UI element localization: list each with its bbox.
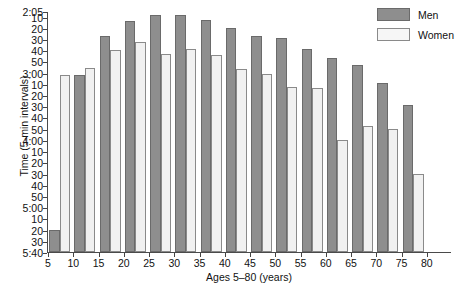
y-axis-tick-label: 20 (31, 226, 43, 236)
y-axis-tick-label: 3:00 (23, 69, 43, 79)
bar-men-age-10 (74, 75, 85, 252)
y-axis-tick-label: 50 (31, 125, 43, 135)
y-axis-tick-label: 30 (31, 35, 43, 45)
bar-men-age-40 (226, 28, 237, 252)
bar-men-age-25 (150, 15, 161, 252)
bar-men-age-15 (100, 36, 111, 252)
bar-women-age-5 (60, 75, 71, 252)
y-axis-tick-label: 30 (31, 237, 43, 247)
y-axis-tick-label: 30 (31, 170, 43, 180)
legend-label-men: Men (418, 9, 438, 21)
y-axis-tick-label: 20 (31, 158, 43, 168)
bar-men-age-60 (327, 58, 338, 252)
bar-women-age-15 (110, 50, 121, 252)
bar-women-age-65 (363, 126, 374, 252)
y-axis-tick-label: 20 (31, 91, 43, 101)
y-axis-tick-label: 10 (31, 147, 43, 157)
y-axis-tick-label: 5:00 (23, 203, 43, 213)
bar-men-age-75 (403, 105, 414, 252)
y-axis-tick-label: 4:00 (23, 136, 43, 146)
bar-chart-figure: Time (5-min intervals) 2:0510203040503:0… (0, 0, 461, 290)
bar-men-age-30 (175, 15, 186, 252)
legend-item-women: Women (377, 28, 454, 41)
bar-men-age-45 (251, 36, 262, 252)
y-axis-tick-label: 40 (31, 181, 43, 191)
y-axis-tick-label: 30 (31, 102, 43, 112)
bar-women-age-40 (236, 69, 247, 252)
legend-swatch-women (377, 28, 410, 41)
bar-men-age-20 (125, 21, 136, 252)
bar-women-age-30 (186, 49, 197, 252)
x-axis-title: Ages 5–80 (years) (47, 271, 451, 283)
bar-women-age-50 (287, 87, 298, 252)
bar-men-age-70 (377, 83, 388, 252)
y-axis-tick-labels: 2:0510203040503:0010203040504:0010203040… (0, 0, 43, 290)
x-axis-tick-labels: 5101520253035404550556065707580 (47, 253, 451, 273)
bar-men-age-5 (49, 230, 60, 252)
bar-women-age-75 (413, 174, 424, 252)
bar-men-age-50 (276, 38, 287, 252)
x-axis-tick-label: 80 (412, 258, 442, 269)
bar-men-age-35 (201, 20, 212, 252)
bar-women-age-70 (388, 129, 399, 252)
legend-item-men: Men (377, 8, 454, 21)
y-axis-tick-label: 10 (31, 13, 43, 23)
plot-area (47, 12, 451, 253)
y-axis-tick-label: 40 (31, 46, 43, 56)
chart-legend: Men Women (377, 8, 454, 48)
legend-label-women: Women (418, 29, 454, 41)
legend-swatch-men (377, 8, 410, 21)
y-axis-tick-label: 5:40 (23, 248, 43, 258)
y-axis-tick-label: 20 (31, 24, 43, 34)
bar-women-age-45 (262, 74, 273, 252)
bar-series-container (48, 12, 451, 252)
y-axis-tick-label: 40 (31, 113, 43, 123)
bar-women-age-25 (161, 54, 172, 252)
bar-men-age-55 (302, 49, 313, 252)
bar-women-age-20 (135, 42, 146, 252)
y-axis-tick-label: 50 (31, 192, 43, 202)
bar-men-age-65 (352, 65, 363, 252)
y-axis-tick-label: 10 (31, 80, 43, 90)
bar-women-age-60 (337, 140, 348, 252)
bar-women-age-55 (312, 88, 323, 252)
y-axis-tick-label: 10 (31, 214, 43, 224)
bar-women-age-35 (211, 55, 222, 252)
bar-women-age-10 (85, 68, 96, 252)
y-axis-tick-label: 50 (31, 57, 43, 67)
